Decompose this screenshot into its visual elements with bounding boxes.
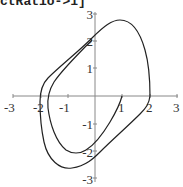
phase-plot: -3 -2 -1 1 2 3 3 2 1 -1 -2 -3 [0, 0, 183, 187]
svg-text:-3: -3 [82, 172, 93, 187]
svg-text:-2: -2 [33, 100, 44, 115]
chart-container: ctRatio->1] -3 -2 -1 1 2 3 3 2 1 -1 -2 -… [0, 0, 183, 187]
svg-text:3: 3 [173, 100, 180, 115]
svg-text:-1: -1 [82, 117, 93, 132]
svg-text:3: 3 [87, 7, 94, 22]
x-tick-labels: -3 -2 -1 1 2 3 [4, 100, 180, 115]
svg-text:1: 1 [118, 100, 125, 115]
svg-text:-2: -2 [82, 145, 93, 160]
svg-text:2: 2 [146, 100, 153, 115]
svg-text:-1: -1 [59, 100, 70, 115]
svg-text:1: 1 [87, 61, 94, 76]
svg-text:-3: -3 [4, 100, 15, 115]
